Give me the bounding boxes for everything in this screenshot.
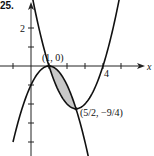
y-tick-label: 2: [20, 23, 25, 34]
intersection-point: [74, 107, 77, 110]
x-axis-label: x: [146, 61, 152, 72]
shaded-region: [49, 66, 76, 109]
problem-number: 25.: [0, 0, 14, 11]
annotation-point-1-0: (1, 0): [42, 52, 64, 64]
annotation-point-5-2: (5/2, −9/4): [80, 107, 123, 119]
intersection-point: [47, 64, 50, 67]
x-tick-label: 4: [104, 68, 109, 79]
chart: 25. 42x(1, 0)(5/2, −9/4): [0, 0, 154, 156]
shaded-region-layer: [49, 66, 76, 109]
